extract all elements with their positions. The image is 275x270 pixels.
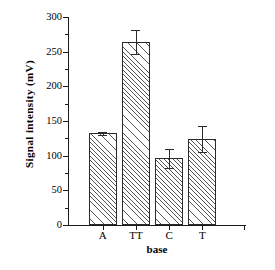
- error-bar-C: [169, 149, 170, 168]
- y-tick-label-100: 100: [46, 150, 62, 161]
- error-cap-T-lower: [198, 152, 207, 153]
- error-bar-TT: [136, 30, 137, 54]
- y-tick-label-150: 150: [46, 116, 62, 127]
- y-tick-200: [63, 86, 68, 87]
- x-tick-end: [244, 226, 245, 230]
- y-minor-tick: [65, 138, 68, 139]
- error-cap-C-lower: [165, 168, 174, 169]
- error-cap-TT-lower: [131, 54, 140, 55]
- error-cap-T-upper: [198, 126, 207, 127]
- bar-A: [89, 133, 117, 225]
- y-axis-title: Signal intensity (mV): [23, 19, 35, 209]
- error-cap-TT-upper: [131, 30, 140, 31]
- y-tick-150: [63, 121, 68, 122]
- y-tick-300: [63, 17, 68, 18]
- y-minor-tick: [65, 173, 68, 174]
- y-minor-tick: [65, 104, 68, 105]
- y-tick-100: [63, 156, 68, 157]
- y-tick-50: [63, 190, 68, 191]
- x-tick-label-A: A: [99, 230, 107, 241]
- y-tick-label-300: 300: [46, 12, 62, 23]
- y-tick-250: [63, 52, 68, 53]
- y-minor-tick: [65, 34, 68, 35]
- y-tick-label-250: 250: [46, 46, 62, 57]
- y-minor-tick: [65, 69, 68, 70]
- error-cap-A-lower: [98, 135, 107, 136]
- error-bar-T: [202, 126, 203, 152]
- bar-TT: [122, 42, 150, 225]
- y-axis-line: [68, 17, 69, 226]
- error-cap-C-upper: [165, 149, 174, 150]
- x-tick-label-T: T: [199, 230, 206, 241]
- plot-area: 050100150200250300 ATTCT: [68, 17, 246, 226]
- y-minor-tick: [65, 208, 68, 209]
- x-tick-label-C: C: [165, 230, 172, 241]
- bar-chart: Signal intensity (mV) 050100150200250300…: [0, 0, 275, 270]
- x-axis-title: base: [68, 243, 246, 255]
- y-tick-label-50: 50: [52, 185, 63, 196]
- x-tick-label-TT: TT: [129, 230, 142, 241]
- x-axis-line: [68, 225, 246, 226]
- error-cap-A-upper: [98, 132, 107, 133]
- y-tick-0: [63, 225, 68, 226]
- y-tick-label-0: 0: [57, 220, 62, 231]
- y-tick-label-200: 200: [46, 81, 62, 92]
